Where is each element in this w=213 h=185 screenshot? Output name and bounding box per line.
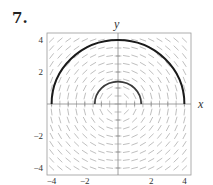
slope-segment [123,63,129,64]
slope-segment [107,168,113,169]
slope-segment [90,167,96,169]
slope-segment [107,119,112,122]
slope-segment [66,142,70,147]
slope-segment [74,38,79,41]
slope-segment [150,117,153,122]
y-axis-label: y [113,17,120,31]
slope-segment [157,38,162,41]
slope-segment [182,158,186,162]
slope-segment [132,167,138,168]
slope-segment [76,109,77,115]
slope-segment [50,133,53,138]
slope-segment [174,54,178,58]
slope-segment [74,46,79,49]
slope-segment [90,39,96,41]
slope-segment [166,142,170,147]
slope-segment [92,93,94,99]
slope-segment [140,47,146,49]
slope-segment [91,70,96,74]
slope-segment [99,71,104,74]
slope-segment [150,109,152,115]
slope-segment [49,38,53,42]
slope-segment [124,87,129,90]
slope-segment [107,143,113,144]
slope-segment [166,150,170,154]
slope-segment [132,55,138,57]
slope-segment [75,134,79,139]
slope-segment [183,61,186,66]
slope-segment [83,70,87,74]
y-tick-label: −4 [33,163,43,173]
slope-segment [99,126,104,129]
slope-segment [132,63,138,65]
slope-segment [132,151,138,153]
slope-segment [140,63,145,66]
slope-segment [108,110,112,114]
slope-segment [91,78,95,82]
slope-segment [158,70,162,75]
slope-segment [167,109,168,115]
slope-segment [183,77,185,83]
slope-segment [99,143,105,145]
slope-segment [59,93,60,99]
slope-segment [107,152,113,153]
slope-segment [68,93,69,99]
slope-segment [91,118,94,123]
slope-segment [75,125,78,130]
slope-segment [50,54,54,59]
slope-segment [133,93,136,98]
slope-segment [99,55,105,57]
slope-segment [141,118,144,123]
slope-segment [83,134,87,138]
x-tick-label: −2 [80,176,90,185]
slope-segment [166,70,169,75]
slope-segment [174,158,178,162]
slope-segment [50,46,54,50]
slope-segment [123,160,129,161]
slope-segment [166,134,169,139]
slope-segment [133,109,136,114]
slope-segment [165,38,170,42]
slope-segment [158,134,162,139]
slope-segment [107,56,113,57]
slope-segment [141,126,145,130]
slope-segment [58,166,63,170]
slope-segment [123,168,129,169]
slope-segment [99,151,105,153]
slope-segment [140,167,146,169]
slope-segment [58,133,61,138]
slope-segment [51,125,53,131]
slope-segment [82,142,87,146]
slope-segment [165,166,170,170]
slope-segment [66,158,71,162]
slope-segment [157,158,162,161]
slope-segment [82,39,87,42]
slope-segment [67,70,70,75]
slope-segment [58,150,62,154]
slope-segment [182,38,186,42]
slope-segment [75,85,77,91]
slope-segment [176,109,177,115]
slope-segment [68,109,69,115]
slope-segment [83,78,87,83]
slope-segment [174,62,178,67]
slope-segment [174,46,178,50]
slope-segment [183,54,187,59]
slope-segment [132,71,137,74]
slope-segment [100,93,103,98]
slope-segment [140,159,146,161]
slope-segment [74,62,78,66]
slope-segment [123,79,129,81]
slope-segment [158,85,160,91]
slope-segment [183,125,185,131]
slope-segment [167,93,168,99]
slope-segment [74,158,79,161]
slope-field-plot: −4−22442−2−4 x y [0,0,213,185]
slope-segment [82,54,87,57]
y-tick-label: 2 [39,67,44,77]
slope-segment [99,118,103,122]
slope-segment [157,142,161,146]
slope-segment [107,160,113,161]
slope-segment [158,117,160,123]
slope-segment [58,158,62,162]
